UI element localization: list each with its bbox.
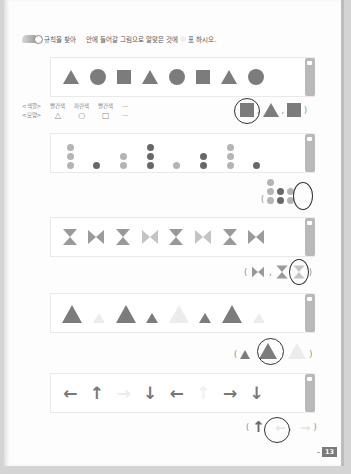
answer-circle-mark: [289, 259, 309, 285]
arrow-left: ←: [170, 385, 184, 402]
problem-5-sequence: ← ↑ → ↓ ← ↑ → ↓: [57, 374, 300, 412]
dot-column: [93, 133, 100, 169]
option-dots-3-light[interactable]: [267, 178, 274, 204]
paren-open: (: [261, 195, 264, 204]
problem-4-sequence: [57, 294, 300, 332]
problem-3-sequence: [57, 218, 300, 256]
bowtie-shape: [248, 230, 264, 244]
instruction-part2: 안에 들어갈 그림으로 알맞은 것에: [86, 34, 178, 44]
problem-3-box: [50, 217, 315, 257]
large-pale-triangle: [169, 305, 189, 323]
option-large-pale-triangle[interactable]: [288, 343, 306, 359]
answer-circle-mark: [234, 98, 260, 124]
square-shape: [117, 70, 131, 84]
problem-1-hint: <색깔> 빨간색 파란색 빨간색 --- <모양> △ ○ □ ---: [22, 102, 137, 120]
bowtie-shape: [88, 230, 104, 244]
hint-color: 빨간색: [98, 102, 122, 111]
problem-4-box: [50, 293, 315, 333]
answer-circle-mark: [257, 338, 284, 365]
paren-open: (: [244, 268, 247, 277]
separator: ,: [282, 106, 285, 115]
paren-open: (: [234, 350, 237, 359]
problem-2-options: (: [261, 178, 294, 204]
page-number-dash: [317, 452, 320, 453]
hint-shape: ○: [74, 111, 98, 120]
triangle-shape: [142, 70, 158, 84]
blank-tab: [305, 134, 315, 172]
option-bowtie[interactable]: [252, 267, 264, 278]
circle-shape: [248, 69, 264, 85]
dot-column: [67, 133, 74, 169]
problem-2-box: [50, 133, 315, 173]
arrow-down: ↓: [250, 385, 264, 402]
paren-close: ): [309, 268, 312, 277]
circle-shape: [169, 69, 185, 85]
page-number-label: 13: [322, 447, 337, 457]
workbook-page: 규칙을 찾아 안에 들어갈 그림으로 알맞은 것에 표 하시오. <색깔> 빨간…: [4, 0, 344, 466]
hint-shape-label: <모양>: [22, 111, 50, 120]
option-square[interactable]: [287, 103, 301, 117]
bowtie-shape-pale: [195, 230, 211, 244]
paren-open: (: [246, 423, 249, 432]
arrow-right: →: [223, 385, 237, 402]
blank-tab: [305, 58, 315, 96]
dot-column: [227, 133, 234, 169]
paren-close: ): [304, 106, 307, 115]
hint-color-label: <색깔>: [22, 102, 50, 111]
hint-shape: △: [50, 111, 74, 120]
dot-column: [120, 133, 127, 169]
blank-tab: [305, 294, 315, 332]
instruction-part3: 표 하시오.: [188, 34, 216, 44]
paren-close: ): [309, 350, 312, 359]
option-arrow-up[interactable]: ↑: [252, 420, 265, 435]
dot-column: [173, 133, 180, 169]
hint-color: ---: [122, 102, 137, 111]
small-dark-triangle: [146, 313, 158, 323]
large-dark-triangle: [222, 305, 242, 323]
hint-shape: □: [98, 111, 122, 120]
arrow-up: ↑: [90, 385, 104, 402]
hourglass-shape: [169, 229, 183, 245]
mascot-icon: [22, 35, 40, 43]
circle-mark-icon: [180, 36, 186, 42]
small-pale-triangle: [93, 313, 105, 323]
dot-column: [200, 133, 207, 169]
small-dark-triangle: [199, 313, 211, 323]
hint-color: 빨간색: [50, 102, 74, 111]
bowtie-shape-pale: [142, 230, 158, 244]
option-dots-2-dark[interactable]: [277, 178, 284, 204]
circle-shape: [90, 69, 106, 85]
answer-circle-mark: [293, 182, 313, 210]
option-triangle[interactable]: [263, 103, 279, 117]
separator: ,: [269, 268, 272, 277]
dot-column: [147, 133, 154, 169]
option-small-dark-triangle[interactable]: [240, 350, 250, 359]
triangle-shape: [63, 70, 79, 84]
hourglass-shape: [223, 229, 237, 245]
instruction-part1: 규칙을 찾아: [44, 34, 76, 44]
triangle-shape: [221, 70, 237, 84]
hint-color: 파란색: [74, 102, 98, 111]
arrow-right-pale: →: [116, 385, 130, 402]
hourglass-shape: [116, 229, 130, 245]
small-pale-triangle: [253, 313, 265, 323]
blank-tab: [305, 218, 315, 256]
page-number: 13: [317, 447, 337, 457]
square-shape: [196, 70, 210, 84]
problem-2-sequence: [57, 134, 300, 172]
dot-column: [253, 133, 260, 169]
option-hourglass[interactable]: [276, 266, 287, 279]
problem-1-box: [50, 57, 315, 97]
option-arrow-right-pale[interactable]: →: [300, 422, 310, 434]
hint-shape: ---: [122, 111, 137, 120]
instruction-header: 규칙을 찾아 안에 들어갈 그림으로 알맞은 것에 표 하시오.: [22, 34, 216, 44]
paren-close: ): [313, 423, 316, 432]
blank-tab: [305, 374, 315, 412]
large-dark-triangle: [116, 305, 136, 323]
large-dark-triangle: [62, 305, 82, 323]
problem-5-box: ← ↑ → ↓ ← ↑ → ↓: [50, 373, 315, 413]
answer-circle-mark: [264, 417, 290, 443]
arrow-down: ↓: [143, 385, 157, 402]
arrow-up-pale: ↑: [196, 385, 210, 402]
hourglass-shape: [63, 229, 77, 245]
